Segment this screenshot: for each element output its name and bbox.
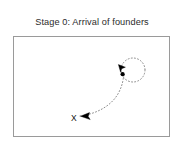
trajectory-plot (0, 0, 184, 149)
founder-position-dot (121, 72, 125, 76)
arrowhead-to-origin-icon (81, 113, 91, 120)
founder-trajectory-loop (121, 58, 145, 82)
origin-marker-label: X (71, 114, 77, 123)
arrowhead-on-loop-icon (118, 65, 125, 73)
founder-trajectory-tail (80, 75, 124, 116)
figure-canvas: Stage 0: Arrival of founders X (0, 0, 184, 149)
